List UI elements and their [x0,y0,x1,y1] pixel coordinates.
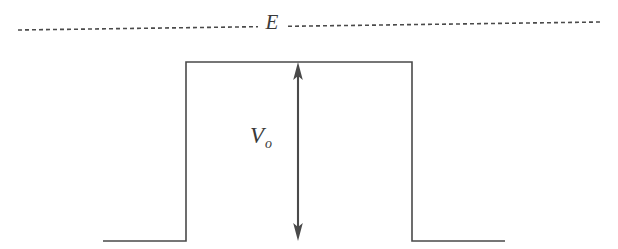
barrier-height-label: Vo [250,123,272,151]
barrier-height-label-subscript: o [265,136,272,151]
energy-level-label: E [265,10,279,34]
energy-level-dashed-line-right [288,22,600,26]
energy-level-dashed-line-left [18,27,258,30]
potential-barrier-diagram: E Vo [0,0,618,249]
barrier-height-arrow [293,62,303,241]
diagram-canvas: E Vo [0,0,618,249]
potential-barrier-outline [103,62,505,241]
